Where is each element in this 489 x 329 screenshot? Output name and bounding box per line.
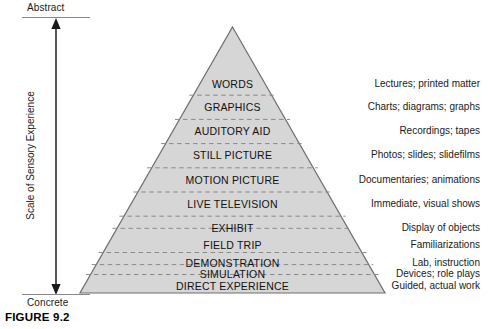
axis-top-rule bbox=[22, 17, 90, 18]
pyramid-level-examples-7: Display of objects bbox=[402, 223, 480, 233]
pyramid-level-examples-2: Charts; diagrams; graphs bbox=[368, 102, 480, 112]
pyramid-level-label-6: LIVE TELEVISION bbox=[112, 199, 353, 210]
pyramid-level-label-10: SIMULATION bbox=[85, 269, 380, 280]
scale-axis-arrow bbox=[51, 18, 60, 295]
pyramid-level-label-11: DIRECT EXPERIENCE bbox=[80, 281, 385, 292]
pyramid-level-label-9: DEMONSTRATION bbox=[91, 258, 374, 269]
pyramid-level-examples-10: Devices; role plays bbox=[396, 269, 480, 279]
pyramid-level-examples-3: Recordings; tapes bbox=[399, 126, 480, 136]
figure-caption: FIGURE 9.2 bbox=[5, 311, 70, 323]
pyramid-level-examples-11: Guided, actual work bbox=[392, 281, 480, 291]
pyramid-level-label-1: WORDS bbox=[182, 79, 283, 90]
pyramid-level-label-2: GRAPHICS bbox=[168, 102, 297, 113]
pyramid-level-examples-6: Immediate, visual shows bbox=[371, 199, 480, 209]
axis-bottom-rule bbox=[22, 294, 90, 295]
arrow-up-icon bbox=[51, 18, 60, 29]
pyramid-level-label-7: EXHIBIT bbox=[105, 223, 360, 234]
pyramid-level-label-4: STILL PICTURE bbox=[140, 150, 325, 161]
pyramid-level-examples-9: Lab, instruction bbox=[412, 258, 480, 268]
pyramid-level-examples-1: Lectures; printed matter bbox=[374, 79, 480, 89]
axis-title: Scale of Sensory Experience bbox=[25, 68, 36, 244]
pyramid-level-examples-8: Familiarizations bbox=[411, 240, 480, 250]
axis-bottom-label: Concrete bbox=[27, 297, 68, 308]
pyramid-level-label-5: MOTION PICTURE bbox=[126, 175, 339, 186]
pyramid-level-label-8: FIELD TRIP bbox=[98, 240, 367, 251]
pyramid-level-label-3: AUDITORY AID bbox=[154, 126, 311, 137]
pyramid-level-examples-4: Photos; slides; slidefilms bbox=[371, 150, 480, 160]
figure-container: Abstract Concrete Scale of Sensory Exper… bbox=[0, 0, 489, 329]
axis-top-label: Abstract bbox=[27, 2, 64, 13]
pyramid-level-examples-5: Documentaries; animations bbox=[359, 175, 480, 185]
